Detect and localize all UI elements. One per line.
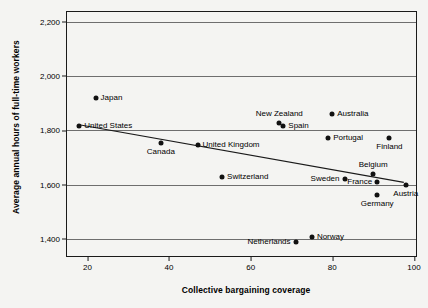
y-axis-tick-label: 1,800	[40, 126, 67, 135]
data-point-label: Japan	[101, 94, 123, 102]
y-axis-tick-label: 2,200	[40, 17, 67, 26]
data-point-label: New Zealand	[256, 110, 303, 118]
data-point	[403, 183, 408, 188]
data-point-label: Spain	[288, 122, 308, 130]
scatter-chart: Average annual hours of full-time worker…	[0, 0, 428, 308]
data-point-label: Sweden	[311, 175, 340, 183]
data-point	[330, 112, 335, 117]
data-point-label: United States	[84, 122, 132, 130]
data-point-label: Netherlands	[247, 238, 290, 246]
trendline	[67, 12, 416, 256]
data-point-label: Austria	[393, 190, 418, 198]
data-point-label: Norway	[317, 233, 344, 241]
data-point-label: Switzerland	[227, 173, 268, 181]
data-point	[195, 143, 200, 148]
y-axis-title: Average annual hours of full-time worker…	[11, 12, 21, 242]
data-point	[375, 192, 380, 197]
data-point-label: Germany	[361, 200, 394, 208]
data-point-label: Finland	[376, 143, 402, 151]
data-point	[158, 141, 163, 146]
data-point	[326, 136, 331, 141]
y-axis-tick-label: 1,600	[40, 180, 67, 189]
data-point-label: Canada	[147, 148, 175, 156]
y-axis-tick-label: 2,000	[40, 71, 67, 80]
x-axis-tick-label: 60	[246, 256, 255, 272]
data-point	[281, 123, 286, 128]
data-point	[387, 135, 392, 140]
x-axis-tick-label: 80	[328, 256, 337, 272]
data-point	[77, 123, 82, 128]
data-point	[371, 172, 376, 177]
data-point-label: Belgium	[359, 161, 388, 169]
data-point-label: United Kingdom	[203, 141, 260, 149]
data-point-label: France	[347, 178, 372, 186]
x-axis-title: Collective bargaining coverage	[66, 285, 426, 295]
y-axis-tick-label: 1,400	[40, 234, 67, 243]
x-axis-tick-label: 40	[165, 256, 174, 272]
data-point	[309, 234, 314, 239]
x-axis-tick-label: 20	[83, 256, 92, 272]
x-axis-tick-label: 100	[407, 256, 420, 272]
data-point	[220, 174, 225, 179]
data-point-label: Australia	[337, 110, 368, 118]
data-point-label: Portugal	[333, 134, 363, 142]
plot-area: 1,4001,6001,8002,0002,200 20406080100 Un…	[66, 11, 417, 257]
data-point	[375, 180, 380, 185]
data-point	[293, 240, 298, 245]
data-point	[93, 95, 98, 100]
